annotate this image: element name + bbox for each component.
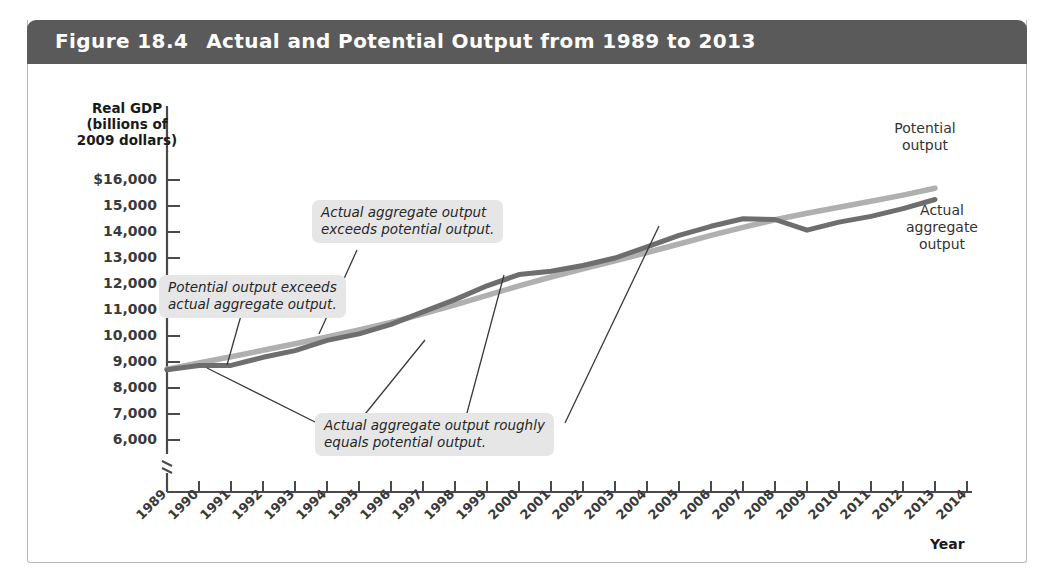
x-axis-title: Year — [930, 536, 965, 552]
series-label-potential: Potential output — [865, 120, 985, 154]
callout-roughly-equals-line2: equals potential output. — [324, 434, 545, 451]
y-axis-title-line3: 2009 dollars) — [67, 132, 187, 148]
series-label-potential-line1: Potential — [865, 120, 985, 137]
series-label-actual-line3: output — [887, 236, 997, 253]
callout-roughly-equals: Actual aggregate output roughly equals p… — [315, 413, 554, 456]
y-tick-label: 14,000 — [65, 223, 157, 239]
callout-roughly-equals-line1: Actual aggregate output roughly — [324, 417, 545, 434]
y-tick-label: 7,000 — [65, 405, 157, 421]
y-tick-label: 6,000 — [65, 431, 157, 447]
y-axis-title-line1: Real GDP — [67, 100, 187, 116]
series-label-actual-line2: aggregate — [887, 219, 997, 236]
y-tick-label: 9,000 — [65, 353, 157, 369]
axis-break-icon — [162, 461, 172, 473]
callout-potential-exceeds: Potential output exceeds actual aggregat… — [159, 275, 346, 318]
series-label-potential-line2: output — [865, 137, 985, 154]
callout-actual-exceeds: Actual aggregate output exceeds potentia… — [312, 200, 503, 243]
callout-leader-lines — [207, 226, 659, 428]
y-tick-label: 10,000 — [65, 327, 157, 343]
y-tick-label: 13,000 — [65, 249, 157, 265]
y-tick-label: 8,000 — [65, 379, 157, 395]
series-label-actual-line1: Actual — [887, 202, 997, 219]
chart-plot-area: Real GDP (billions of 2009 dollars) $16,… — [27, 20, 1027, 563]
y-tick-label: 11,000 — [65, 301, 157, 317]
callout-potential-exceeds-line2: actual aggregate output. — [168, 296, 337, 313]
callout-actual-exceeds-line2: exceeds potential output. — [321, 221, 494, 238]
y-tick-label: $16,000 — [65, 171, 157, 187]
y-axis-title: Real GDP (billions of 2009 dollars) — [67, 100, 187, 148]
y-axis-title-line2: (billions of — [67, 116, 187, 132]
callout-potential-exceeds-line1: Potential output exceeds — [168, 279, 337, 296]
callout-actual-exceeds-line1: Actual aggregate output — [321, 204, 494, 221]
series-label-actual: Actual aggregate output — [887, 202, 997, 253]
y-tick-label: 15,000 — [65, 197, 157, 213]
y-tick-label: 12,000 — [65, 275, 157, 291]
